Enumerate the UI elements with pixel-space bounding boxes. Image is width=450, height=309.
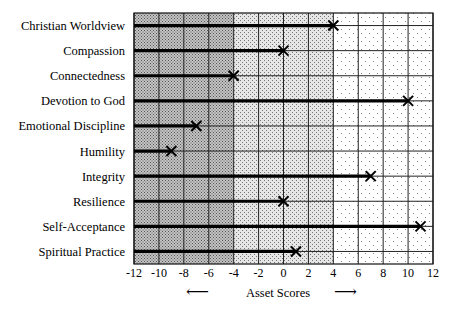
x-tick-label: -10 <box>151 266 167 280</box>
category-label: Christian Worldview <box>21 19 125 33</box>
category-label: Spiritual Practice <box>39 245 126 259</box>
category-label: Integrity <box>82 170 126 184</box>
category-label: Humility <box>80 145 126 159</box>
x-tick-label: 12 <box>427 266 439 280</box>
x-tick-label: -2 <box>254 266 264 280</box>
category-label: Resilience <box>73 195 126 209</box>
x-tick-label: 10 <box>402 266 414 280</box>
x-axis-ticks: -12-10-8-6-4-2024681012 <box>126 266 439 280</box>
right-arrow-icon: ⟶ <box>334 283 357 300</box>
asset-scores-chart: Christian WorldviewCompassionConnectedne… <box>0 0 450 309</box>
x-axis-title-group: ⟵ Asset Scores ⟶ <box>186 283 357 300</box>
x-tick-label: 0 <box>281 266 287 280</box>
x-tick-label: 8 <box>380 266 386 280</box>
x-tick-label: 2 <box>305 266 311 280</box>
x-tick-label: 6 <box>355 266 361 280</box>
category-label: Connectedness <box>50 69 125 83</box>
category-labels: Christian WorldviewCompassionConnectedne… <box>18 19 125 259</box>
x-axis-title: Asset Scores <box>246 286 310 300</box>
category-label: Emotional Discipline <box>18 119 125 133</box>
x-tick-label: -6 <box>204 266 214 280</box>
category-label: Compassion <box>63 44 126 58</box>
x-tick-label: -12 <box>126 266 142 280</box>
x-tick-label: -8 <box>179 266 189 280</box>
left-arrow-icon: ⟵ <box>186 283 209 300</box>
x-tick-label: 4 <box>330 266 336 280</box>
x-tick-label: -4 <box>229 266 239 280</box>
category-label: Devotion to God <box>41 94 126 108</box>
category-label: Self-Acceptance <box>42 220 125 234</box>
